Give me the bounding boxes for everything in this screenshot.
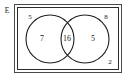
outside-both-region-value: 2 <box>108 58 112 66</box>
universal-set-label: E <box>5 6 10 15</box>
venn-diagram-figure: E 5 8 7 16 5 2 <box>0 0 126 77</box>
right-only-region-value: 5 <box>91 34 95 43</box>
venn-diagram-canvas: E 5 8 7 16 5 2 <box>0 0 126 77</box>
left-only-region-value: 7 <box>40 34 44 43</box>
left-set-label: 5 <box>28 13 32 21</box>
intersection-region-value: 16 <box>63 34 71 43</box>
right-set-label: 8 <box>104 13 108 21</box>
